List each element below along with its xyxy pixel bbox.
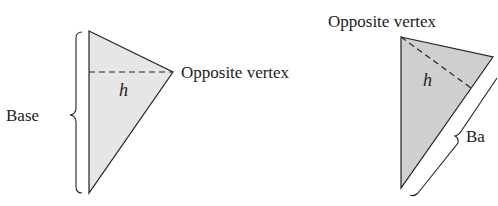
right-base-label: Ba: [466, 127, 485, 146]
right-triangle-figure: h Ba Opposite vertex: [328, 12, 497, 196]
left-base-brace: [70, 32, 82, 193]
left-vertex-label: Opposite vertex: [181, 63, 290, 82]
triangle-diagram: h Base Opposite vertex h Ba Opposite ver…: [0, 0, 498, 206]
right-vertex-label: Opposite vertex: [328, 12, 437, 31]
left-triangle-figure: h Base Opposite vertex: [6, 31, 290, 193]
left-height-label: h: [119, 80, 128, 100]
left-base-label: Base: [6, 106, 39, 125]
left-triangle: [89, 31, 173, 193]
right-triangle: [401, 37, 493, 188]
right-height-label: h: [423, 70, 432, 90]
